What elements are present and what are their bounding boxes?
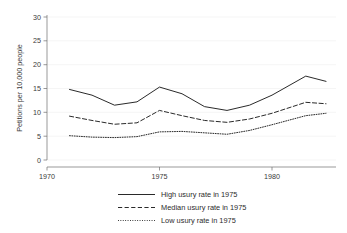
y-tick-label-10: 10 — [33, 108, 41, 117]
series-line-median — [70, 102, 327, 124]
line-chart: 30 25 20 15 10 5 0 Petitions per 10,000 … — [0, 0, 347, 233]
legend-label-high: High usury rate in 1975 — [161, 190, 237, 199]
series-group — [70, 76, 327, 137]
y-tick-label-5: 5 — [37, 132, 41, 141]
x-tick-label-1980: 1980 — [264, 172, 280, 181]
x-tick-label-1975: 1975 — [152, 172, 168, 181]
legend-label-median: Median usury rate in 1975 — [161, 203, 246, 212]
series-line-high — [70, 76, 327, 110]
y-tick-label-20: 20 — [33, 60, 41, 69]
y-axis: 30 25 20 15 10 5 0 Petitions per 10,000 … — [15, 13, 47, 165]
x-axis: 1970 1975 1980 — [39, 167, 336, 181]
gridlines — [47, 17, 336, 160]
x-tick-label-1970: 1970 — [39, 172, 55, 181]
legend-label-low: Low usury rate in 1975 — [161, 216, 236, 225]
y-tick-label-25: 25 — [33, 36, 41, 45]
series-line-low — [70, 113, 327, 137]
y-tick-label-15: 15 — [33, 84, 41, 93]
chart-figure: 30 25 20 15 10 5 0 Petitions per 10,000 … — [0, 0, 347, 233]
y-tick-label-30: 30 — [33, 13, 41, 22]
y-axis-title: Petitions per 10,000 people — [15, 44, 24, 132]
legend: High usury rate in 1975 Median usury rat… — [118, 190, 246, 225]
y-tick-label-0: 0 — [37, 156, 41, 165]
